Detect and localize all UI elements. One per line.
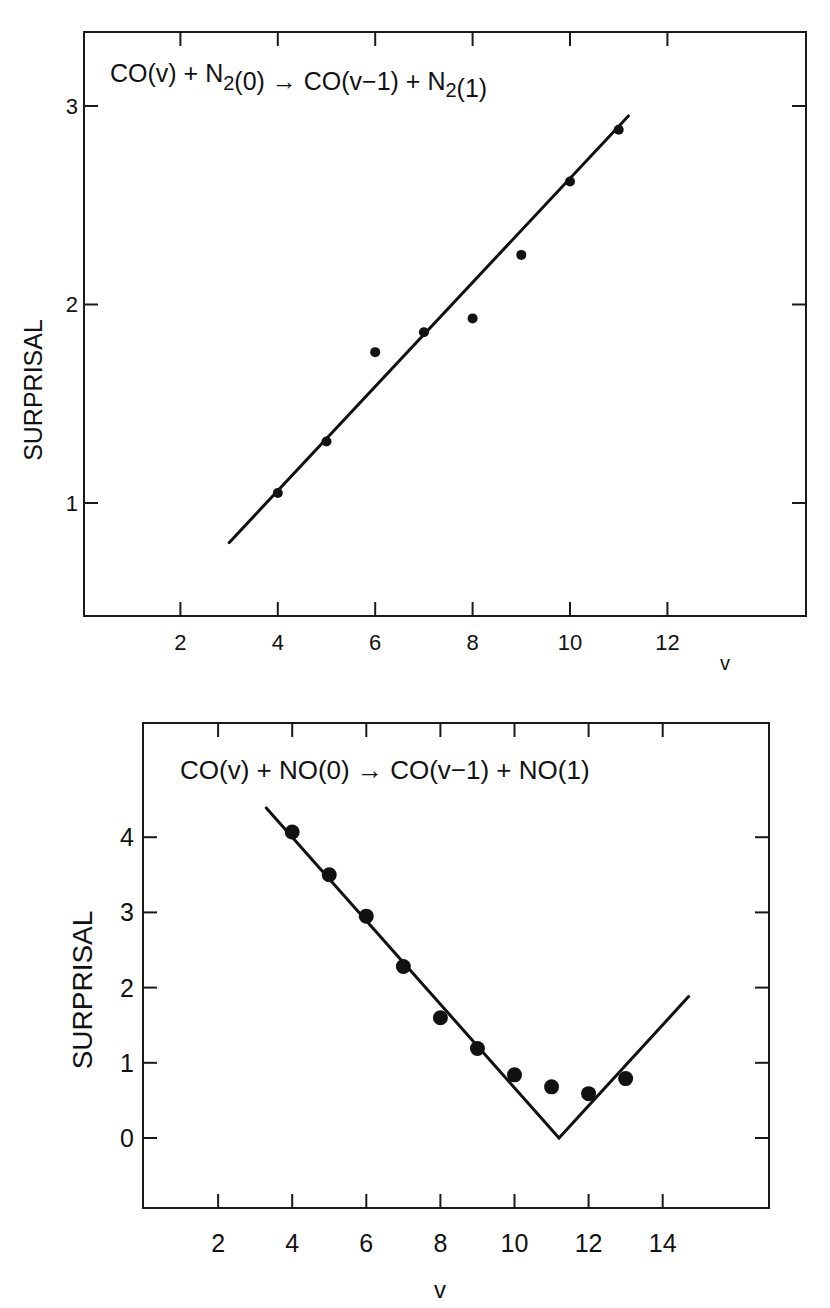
y-tick-label: 3 [120,898,134,926]
y-axis-label: SURPRISAL [19,319,47,461]
y-tick-label: 2 [120,974,134,1002]
chart-title: CO(v) + NO(0) → CO(v−1) + NO(1) [180,755,590,785]
data-point [322,867,337,882]
y-tick-label: 3 [66,94,78,119]
x-tick-label: 8 [433,1229,447,1257]
x-tick-label: 2 [174,630,186,655]
data-point [565,176,575,186]
chart-co-n2: 24681012123vSURPRISALCO(v) + N2(0) → CO(… [19,32,806,674]
plot-frame [84,32,806,616]
data-point [468,313,478,323]
x-tick-label: 12 [655,630,679,655]
data-point [516,250,526,260]
x-tick-label: 2 [211,1229,225,1257]
fit-line [266,808,688,1138]
y-tick-label: 1 [120,1049,134,1077]
data-point [273,488,283,498]
y-tick-label: 4 [120,823,134,851]
x-tick-label: 12 [575,1229,603,1257]
x-tick-label: 6 [359,1229,373,1257]
x-tick-label: 10 [558,630,582,655]
data-point [618,1071,633,1086]
data-point [419,327,429,337]
x-tick-label: 10 [501,1229,529,1257]
chart-co-no: 246810121401234vSURPRISALCO(v) + NO(0) →… [67,723,769,1303]
data-point [322,436,332,446]
data-point [544,1079,559,1094]
data-point [614,125,624,135]
x-tick-label: 14 [649,1229,677,1257]
y-tick-label: 1 [66,491,78,516]
data-point [359,909,374,924]
data-point [433,1010,448,1025]
x-tick-label: 8 [466,630,478,655]
data-point [285,824,300,839]
data-point [470,1041,485,1056]
y-tick-label: 0 [120,1124,134,1152]
data-point [581,1086,596,1101]
y-tick-label: 2 [66,292,78,317]
chart-title: CO(v) + N2(0) → CO(v−1) + N2(1) [110,59,487,102]
x-tick-label: 4 [285,1229,299,1257]
data-point [507,1067,522,1082]
x-tick-label: 4 [272,630,284,655]
data-point [370,347,380,357]
data-point [396,959,411,974]
plot-frame [143,723,769,1208]
x-tick-label: 6 [369,630,381,655]
surprisal-figure: 24681012123vSURPRISALCO(v) + N2(0) → CO(… [0,0,830,1308]
x-axis-label: v [434,1276,446,1303]
y-axis-label: SURPRISAL [67,911,98,1070]
x-axis-label: v [720,652,730,674]
